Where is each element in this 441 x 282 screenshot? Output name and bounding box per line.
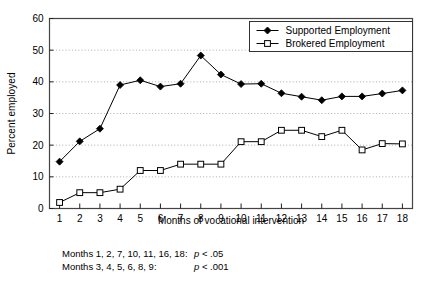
svg-text:Supported Employment: Supported Employment bbox=[286, 25, 391, 36]
note-months-label: Months 3, 4, 5, 6, 8, 9: bbox=[62, 261, 194, 274]
svg-text:60: 60 bbox=[32, 13, 44, 24]
note-row: Months 3, 4, 5, 6, 8, 9: p < .001 bbox=[62, 261, 229, 274]
significance-notes: Months 1, 2, 7, 10, 11, 16, 18: p < .05 … bbox=[62, 248, 229, 273]
note-p-value: p < .05 bbox=[194, 248, 223, 261]
note-p-value: p < .001 bbox=[194, 261, 229, 274]
p-threshold: < .05 bbox=[199, 248, 223, 259]
svg-text:30: 30 bbox=[32, 108, 44, 119]
svg-text:50: 50 bbox=[32, 45, 44, 56]
x-axis-title: Months of vocational intervention bbox=[49, 215, 413, 226]
note-row: Months 1, 2, 7, 10, 11, 16, 18: p < .05 bbox=[62, 248, 229, 261]
p-threshold: < .001 bbox=[199, 261, 228, 272]
chart-plot-area: 0102030405060 12345678910111213141516171… bbox=[0, 0, 441, 232]
chart-legend: Supported EmploymentBrokered Employment bbox=[250, 22, 413, 52]
svg-text:Brokered Employment: Brokered Employment bbox=[286, 38, 385, 49]
svg-text:0: 0 bbox=[38, 203, 44, 214]
svg-text:10: 10 bbox=[32, 171, 44, 182]
note-months-label: Months 1, 2, 7, 10, 11, 16, 18: bbox=[62, 248, 194, 261]
y-axis-ticks: 0102030405060 bbox=[32, 13, 53, 214]
svg-text:20: 20 bbox=[32, 140, 44, 151]
svg-text:40: 40 bbox=[32, 76, 44, 87]
y-axis-title-text: Percent employed bbox=[6, 72, 17, 154]
line-chart-svg: 0102030405060 12345678910111213141516171… bbox=[0, 0, 441, 232]
y-axis-title: Percent employed bbox=[2, 18, 20, 208]
series-lines bbox=[56, 52, 406, 205]
figure: 0102030405060 12345678910111213141516171… bbox=[0, 0, 441, 282]
